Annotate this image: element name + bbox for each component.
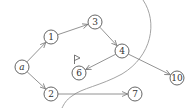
edge-a-to-2 xyxy=(27,72,45,89)
node-label: 2 xyxy=(48,89,54,99)
node-6: 6 xyxy=(72,66,86,80)
edge-3-to-4 xyxy=(100,27,117,45)
node-2: 2 xyxy=(44,87,58,101)
node-10: 10 xyxy=(170,71,184,85)
edge-1-to-3 xyxy=(58,24,88,34)
edge-4-to-6 xyxy=(86,54,116,69)
node-label: 10 xyxy=(171,73,183,83)
node-label: 6 xyxy=(76,68,82,78)
node-1: 1 xyxy=(44,30,58,44)
flag-icon xyxy=(75,55,81,64)
edge-a-to-1 xyxy=(27,42,46,62)
graph-diagram: a13461027 xyxy=(0,0,194,108)
node-4: 4 xyxy=(115,44,129,58)
node-label: 4 xyxy=(119,46,125,56)
nodes: a13461027 xyxy=(15,15,184,101)
node-3: 3 xyxy=(88,15,102,29)
node-label: 3 xyxy=(92,17,98,27)
node-label: 7 xyxy=(132,89,138,99)
node-a: a xyxy=(15,60,29,74)
node-label: a xyxy=(19,62,24,72)
node-label: 1 xyxy=(48,32,54,42)
node-7: 7 xyxy=(128,87,142,101)
